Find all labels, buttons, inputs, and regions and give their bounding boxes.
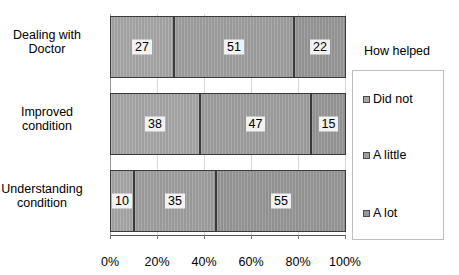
x-tick-0	[110, 235, 111, 239]
category-label-understanding-condition: Understanding condition	[0, 182, 107, 210]
category-label-line: condition	[0, 119, 107, 133]
x-tick-100	[345, 235, 346, 239]
bar-value-label: 22	[310, 40, 330, 55]
category-label-line: Dealing with	[0, 28, 107, 42]
legend-box: Did not A little A lot	[352, 70, 444, 240]
x-axis-line	[110, 235, 346, 236]
x-tick-60	[251, 235, 252, 239]
x-tick-label-80: 80%	[285, 255, 310, 269]
legend-item-did-not[interactable]: Did not	[363, 92, 413, 106]
bar-value-label: 38	[145, 117, 165, 132]
bar-segment-a-lot[interactable]: 55	[216, 170, 346, 232]
bar-value-label: 47	[246, 117, 266, 132]
legend-title: How helped	[364, 44, 430, 58]
category-label-line: condition	[0, 196, 107, 210]
legend-item-label: A lot	[373, 206, 397, 220]
category-label-line: Improved	[0, 105, 107, 119]
bar-segment-a-little[interactable]: 35	[134, 170, 216, 232]
legend-item-a-little[interactable]: A little	[363, 148, 406, 162]
category-label-line: Understanding	[0, 182, 107, 196]
x-tick-80	[298, 235, 299, 239]
legend-swatch-icon	[363, 210, 370, 217]
x-tick-40	[204, 235, 205, 239]
bar-value-label: 15	[319, 117, 339, 132]
x-tick-20	[157, 235, 158, 239]
x-tick-label-100: 100%	[329, 255, 361, 269]
bar-value-label: 55	[271, 194, 291, 209]
stacked-bar-chart: Dealing with Doctor Improved condition U…	[0, 0, 459, 275]
bar-segment-a-lot[interactable]: 22	[294, 16, 346, 78]
bar-value-label: 27	[132, 40, 152, 55]
legend-item-label: Did not	[373, 92, 413, 106]
legend-swatch-icon	[363, 152, 370, 159]
bar-segment-a-lot[interactable]: 15	[311, 93, 346, 155]
legend-item-label: A little	[373, 148, 406, 162]
x-tick-label-40: 40%	[191, 255, 216, 269]
bar-value-label: 35	[165, 194, 185, 209]
bar-value-label: 10	[112, 194, 132, 209]
plot-area: 27 51 22 38 47 15 10	[110, 14, 346, 236]
legend-item-a-lot[interactable]: A lot	[363, 206, 397, 220]
bar-segment-a-little[interactable]: 47	[200, 93, 311, 155]
category-label-improved-condition: Improved condition	[0, 105, 107, 133]
x-tick-label-20: 20%	[144, 255, 169, 269]
bar-segment-did-not[interactable]: 10	[110, 170, 134, 232]
legend-swatch-icon	[363, 96, 370, 103]
category-label-line: Doctor	[0, 42, 107, 56]
bar-segment-did-not[interactable]: 27	[110, 16, 174, 78]
x-tick-label-0: 0%	[101, 255, 119, 269]
bar-segment-did-not[interactable]: 38	[110, 93, 200, 155]
bar-value-label: 51	[224, 40, 244, 55]
x-tick-label-60: 60%	[238, 255, 263, 269]
bar-segment-a-little[interactable]: 51	[174, 16, 294, 78]
category-label-dealing-with-doctor: Dealing with Doctor	[0, 28, 107, 56]
